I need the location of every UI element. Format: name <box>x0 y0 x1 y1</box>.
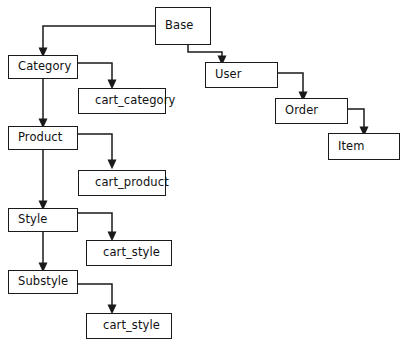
node-order[interactable]: Order <box>275 98 348 124</box>
node-item[interactable]: Item <box>328 133 400 160</box>
node-label-item: Item <box>329 141 365 153</box>
node-label-substyle: Substyle <box>9 276 68 288</box>
node-label-cart_category: cart_category <box>79 95 175 107</box>
node-label-product: Product <box>9 132 62 144</box>
node-base[interactable]: Base <box>155 7 211 45</box>
connector-product-to-cart <box>78 134 112 160</box>
node-cart_style_2[interactable]: cart_style <box>86 313 172 339</box>
connector-order-to-item <box>348 109 364 127</box>
node-substyle[interactable]: Substyle <box>8 270 78 294</box>
connector-substyle-to-cart <box>78 284 112 305</box>
connector-user-to-order <box>278 73 303 92</box>
node-label-cart_style_1: cart_style <box>87 247 160 259</box>
node-label-user: User <box>206 69 242 81</box>
node-category[interactable]: Category <box>8 55 78 79</box>
node-label-cart_product: cart_product <box>79 177 169 189</box>
connector-layer <box>0 0 407 348</box>
connector-base-to-user <box>188 45 222 56</box>
node-cart_product[interactable]: cart_product <box>78 170 166 196</box>
node-label-cart_style_2: cart_style <box>87 320 160 332</box>
node-label-style: Style <box>9 214 47 226</box>
node-label-category: Category <box>9 61 71 73</box>
connector-style-to-cart <box>78 213 112 232</box>
node-style[interactable]: Style <box>8 208 78 232</box>
node-user[interactable]: User <box>205 62 278 88</box>
node-label-base: Base <box>156 20 193 32</box>
node-product[interactable]: Product <box>8 126 78 150</box>
node-label-order: Order <box>276 105 318 117</box>
connector-category-to-cart <box>78 63 112 80</box>
diagram-canvas: BaseCategorycart_categoryProductcart_pro… <box>0 0 407 348</box>
node-cart_style_1[interactable]: cart_style <box>86 240 172 266</box>
node-cart_category[interactable]: cart_category <box>78 88 166 114</box>
connector-base-to-category <box>43 26 155 48</box>
